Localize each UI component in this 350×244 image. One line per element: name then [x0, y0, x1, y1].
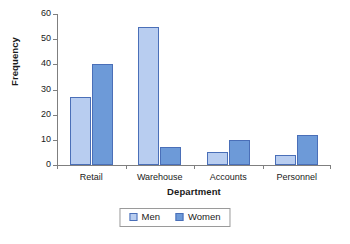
bar — [160, 147, 181, 165]
x-axis-tick-mark — [263, 165, 264, 169]
bar — [275, 155, 296, 165]
y-axis-tick-label: 50 — [41, 33, 51, 44]
y-axis-tick: 30 — [57, 90, 61, 91]
y-axis-tick-label: 10 — [41, 134, 51, 145]
chart-legend: Men Women — [119, 208, 230, 227]
y-axis-tick-mark — [53, 115, 57, 116]
bar — [138, 27, 159, 165]
legend-item-men[interactable]: Men — [129, 212, 159, 222]
y-axis-tick-mark — [53, 14, 57, 15]
legend-label-men: Men — [141, 212, 159, 222]
y-axis-tick-label: 30 — [41, 84, 51, 95]
y-axis-tick: 40 — [57, 64, 61, 65]
y-axis-title: Frequency — [9, 22, 20, 102]
legend-swatch-men-icon — [129, 213, 137, 221]
bar-chart: Frequency 0102030405060 RetailWarehouseA… — [0, 0, 350, 244]
x-axis-tick-mark — [126, 165, 127, 169]
x-axis-tick-mark — [330, 165, 331, 169]
bar — [207, 152, 228, 165]
y-axis-tick: 10 — [57, 140, 61, 141]
legend-item-women[interactable]: Women — [176, 212, 221, 222]
plot-area: 0102030405060 RetailWarehouseAccountsPer… — [57, 14, 331, 166]
y-axis-tick-mark — [53, 90, 57, 91]
bar — [297, 135, 318, 165]
legend-label-women: Women — [188, 212, 221, 222]
y-axis-tick-mark — [53, 39, 57, 40]
x-axis-category-label: Retail — [80, 172, 103, 182]
y-axis-tick-label: 40 — [41, 58, 51, 69]
x-axis-tick-mark — [57, 165, 58, 169]
x-axis-category-label: Accounts — [210, 172, 247, 182]
bar — [92, 64, 113, 165]
y-axis-tick: 50 — [57, 39, 61, 40]
y-axis-tick: 60 — [57, 14, 61, 15]
bar — [229, 140, 250, 165]
bar — [70, 97, 91, 165]
y-axis-tick-mark — [53, 140, 57, 141]
y-axis-tick: 20 — [57, 115, 61, 116]
x-axis-tick-mark — [194, 165, 195, 169]
legend-swatch-women-icon — [176, 213, 184, 221]
y-axis-tick-mark — [53, 64, 57, 65]
y-axis-tick-label: 20 — [41, 109, 51, 120]
x-axis-category-label: Warehouse — [137, 172, 183, 182]
x-axis-category-label: Personnel — [276, 172, 317, 182]
y-axis-tick-label: 60 — [41, 8, 51, 19]
y-axis-tick-label: 0 — [46, 159, 51, 170]
x-axis-title: Department — [57, 186, 331, 197]
